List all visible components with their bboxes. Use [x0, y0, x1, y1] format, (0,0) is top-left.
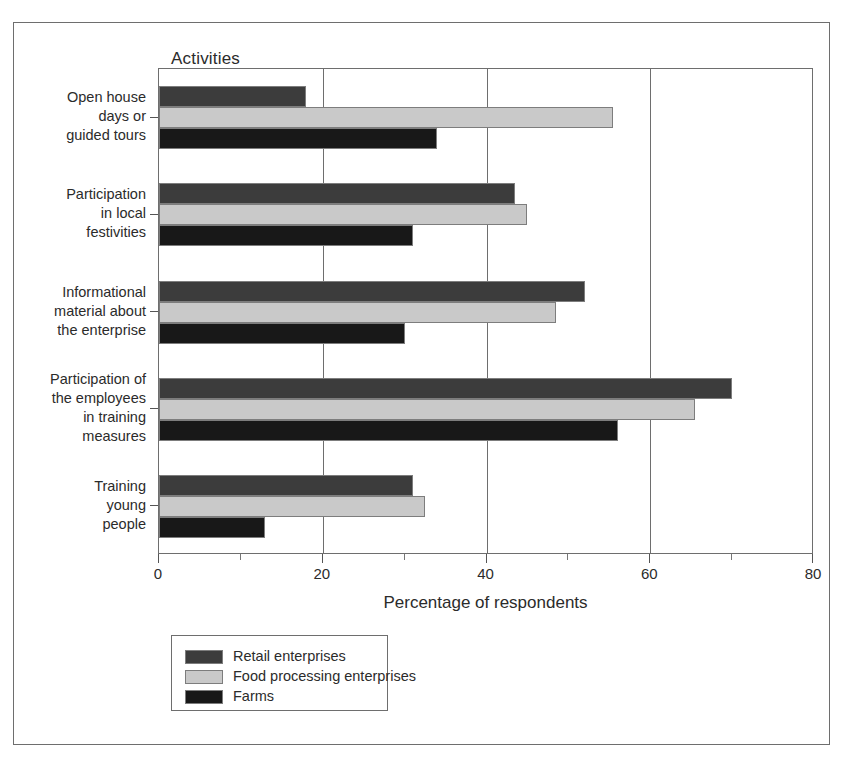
x-axis-title: Percentage of respondents [158, 593, 813, 613]
bar [159, 302, 556, 323]
x-axis-tick-label: 80 [805, 565, 822, 582]
bar [159, 107, 613, 128]
x-axis-minor-tick-mark [404, 554, 405, 560]
bar-group [159, 475, 812, 538]
x-axis: 020406080 [158, 554, 813, 594]
bar [159, 183, 515, 204]
chart-legend: Retail enterprisesFood processing enterp… [171, 635, 388, 711]
bar [159, 420, 618, 441]
x-axis-minor-tick-mark [731, 554, 732, 560]
x-axis-tick-label: 60 [641, 565, 658, 582]
bar [159, 475, 413, 496]
legend-label: Farms [233, 688, 274, 704]
bar [159, 225, 413, 246]
legend-label: Food processing enterprises [233, 668, 416, 684]
x-axis-tick-mark [486, 554, 487, 563]
y-axis-tick-label: Open house days or guided tours [66, 88, 146, 145]
bar [159, 204, 527, 225]
x-axis-minor-tick-mark [567, 554, 568, 560]
plot-title: Activities [171, 49, 240, 69]
legend-label: Retail enterprises [233, 648, 346, 664]
x-axis-tick-label: 20 [313, 565, 330, 582]
x-axis-tick-mark [649, 554, 650, 563]
x-axis-minor-tick-mark [240, 554, 241, 560]
figure-frame: Activities Open house days or guided tou… [13, 22, 830, 745]
x-axis-tick-label: 0 [154, 565, 162, 582]
bar-group [159, 183, 812, 246]
plot-area [158, 68, 813, 554]
legend-swatch [185, 650, 223, 664]
bar [159, 128, 437, 149]
x-axis-tick-label: 40 [477, 565, 494, 582]
x-axis-tick-mark [322, 554, 323, 563]
bar [159, 86, 306, 107]
legend-swatch [185, 690, 223, 704]
bar [159, 378, 732, 399]
y-axis-category-labels: Open house days or guided toursParticipa… [14, 68, 146, 554]
bar-group [159, 378, 812, 441]
x-axis-tick-mark [812, 554, 813, 563]
bar-group [159, 281, 812, 344]
y-axis-tick-label: Training young people [94, 477, 146, 534]
legend-swatch [185, 670, 223, 684]
y-axis-tick-label: Participation of the employees in traini… [50, 370, 146, 446]
y-axis-tick-label: Informational material about the enterpr… [54, 283, 146, 340]
x-axis-tick-mark [158, 554, 159, 563]
bar-group [159, 86, 812, 149]
bar [159, 323, 405, 344]
bar [159, 399, 695, 420]
bar [159, 281, 585, 302]
bar [159, 517, 265, 538]
y-axis-tick-label: Participation in local festivities [66, 185, 146, 242]
bar [159, 496, 425, 517]
